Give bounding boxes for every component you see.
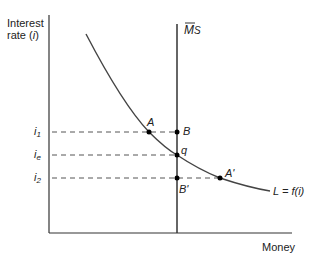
- y-axis-label: Interest rate (i): [7, 17, 44, 41]
- tick-sub: 1: [36, 130, 40, 139]
- tick-sub: 2: [36, 176, 40, 185]
- ms-m: M: [184, 23, 194, 37]
- y-label-post: ): [35, 29, 39, 41]
- tick-sub: e: [36, 153, 40, 162]
- y-axis-label-line2: rate (i): [7, 29, 44, 41]
- point-B: [175, 130, 180, 135]
- money-demand-curve: [86, 34, 270, 191]
- tick-i1: i1: [34, 125, 41, 141]
- point-B-prime: [175, 176, 180, 181]
- y-label-pre: rate (: [7, 29, 33, 41]
- ms-s: S: [194, 25, 201, 36]
- y-axis-label-line1: Interest: [7, 17, 44, 29]
- label-B: B: [183, 125, 190, 137]
- label-B-prime: B': [179, 183, 188, 195]
- chart-canvas: [0, 0, 319, 262]
- x-axis-label: Money: [262, 241, 295, 253]
- point-q: [175, 153, 180, 158]
- label-A: A: [147, 116, 154, 128]
- point-A-prime: [218, 176, 223, 181]
- tick-i2: i2: [34, 171, 41, 187]
- tick-ie: ie: [34, 148, 41, 164]
- point-A: [147, 130, 152, 135]
- label-q: q: [181, 144, 187, 156]
- label-A-prime: A': [225, 167, 234, 179]
- curve-label: L = f(i): [273, 185, 304, 197]
- ms-label: MS: [184, 24, 201, 37]
